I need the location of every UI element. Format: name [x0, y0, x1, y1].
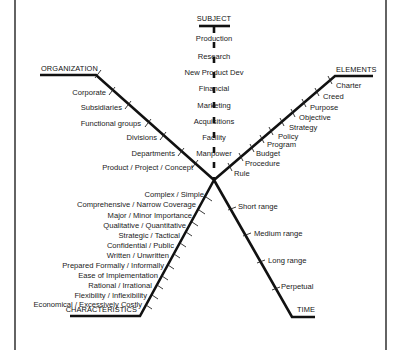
time-item: Short range [238, 202, 278, 211]
organization-item: Functional groups [81, 119, 142, 128]
organization-item: Corporate [72, 88, 106, 97]
elements-item: Purpose [310, 103, 338, 112]
characteristics-item: Comprehensive / Narrow Coverage [77, 200, 196, 209]
subject-title: SUBJECT [197, 14, 232, 23]
elements-item: Strategy [289, 123, 317, 132]
subject-item: Production [196, 34, 232, 43]
time-branch: TIME Short range Medium range Long range… [214, 180, 315, 317]
characteristics-item: Complex / Simple [144, 190, 204, 199]
characteristics-item: Strategic / Tactical [119, 231, 181, 240]
organization-item: Divisions [127, 133, 158, 142]
elements-branch: ELEMENTS Charter Creed Purpose Objective… [214, 65, 377, 180]
organization-item: Subsidiaries [81, 103, 123, 112]
characteristics-item: Confidential / Public [107, 241, 174, 250]
subject-item: Marketing [197, 101, 230, 110]
time-title: TIME [297, 305, 315, 314]
characteristics-item: Flexibility / Inflexibility [74, 291, 147, 300]
characteristics-item: Prepared Formally / Informally [62, 261, 164, 270]
subject-item: Acquisitions [194, 117, 235, 126]
time-axis [214, 180, 315, 317]
elements-item: Program [267, 140, 296, 149]
characteristics-item: Written / Unwritten [107, 251, 169, 260]
subject-item: New Product Dev [184, 68, 243, 77]
organization-title: ORGANIZATION [41, 64, 98, 73]
characteristics-branch: CHARACTERISTICS Complex / Simple Compreh… [34, 180, 214, 316]
elements-title: ELEMENTS [336, 65, 377, 74]
elements-item: Creed [323, 92, 344, 101]
elements-item: Budget [256, 149, 281, 158]
elements-item: Charter [336, 81, 362, 90]
characteristics-item: Major / Minor Importance [108, 211, 192, 220]
diagram-canvas: SUBJECT Production Research New Product … [0, 0, 400, 350]
subject-branch: SUBJECT Production Research New Product … [184, 14, 243, 180]
characteristics-item: Economical / Excessively Costly [34, 300, 143, 309]
elements-item: Procedure [245, 159, 280, 168]
organization-item: Departments [132, 149, 176, 158]
characteristics-item: Rational / Irrational [88, 281, 152, 290]
organization-branch: ORGANIZATION Corporate Subsidiaries Func… [40, 64, 214, 180]
time-item: Perpetual [281, 282, 314, 291]
time-item: Long range [268, 256, 306, 265]
organization-item: Product / Project / Concept [102, 163, 194, 172]
subject-item: Manpower [196, 149, 232, 158]
characteristics-item: Qualitative / Quantitative [103, 221, 186, 230]
time-item: Medium range [254, 229, 303, 238]
elements-item: Rule [234, 169, 250, 178]
elements-item: Objective [299, 113, 331, 122]
subject-item: Facility [202, 133, 226, 142]
characteristics-item: Ease of Implementation [78, 271, 158, 280]
subject-item: Research [198, 52, 231, 61]
subject-item: Financial [199, 84, 230, 93]
